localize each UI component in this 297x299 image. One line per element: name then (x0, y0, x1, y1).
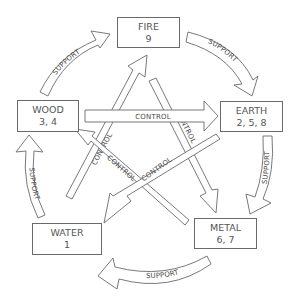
node-fire-numbers: 9 (145, 33, 151, 45)
node-earth: EARTH 2, 5, 8 (220, 101, 283, 132)
support-arrow-metal-water: SUPPORT (98, 256, 211, 289)
node-earth-name: EARTH (236, 105, 267, 117)
support-arrow-wood-fire: SUPPORT (40, 31, 110, 96)
node-fire-name: FIRE (138, 21, 159, 33)
node-water-numbers: 1 (64, 239, 70, 251)
svg-text:CONTROL: CONTROL (135, 113, 171, 121)
control-arrow-metal-wood: CONTROL (75, 129, 189, 225)
support-arrow-fire-earth: SUPPORT (186, 32, 258, 96)
node-metal: METAL 6, 7 (194, 218, 257, 249)
svg-text:SUPPORT: SUPPORT (51, 47, 82, 76)
node-metal-numbers: 6, 7 (216, 234, 234, 246)
node-wood: WOOD 3, 4 (17, 100, 79, 132)
node-water: WATER 1 (32, 223, 102, 255)
node-earth-numbers: 2, 5, 8 (236, 117, 266, 129)
svg-text:CONTROL: CONTROL (105, 154, 137, 183)
node-metal-name: METAL (210, 222, 241, 234)
node-wood-name: WOOD (32, 104, 64, 116)
support-arrow-water-wood: SUPPORT (16, 135, 45, 218)
node-water-name: WATER (50, 227, 83, 239)
support-arrow-earth-metal: SUPPORT (246, 136, 273, 214)
node-fire: FIRE 9 (117, 17, 180, 48)
node-wood-numbers: 3, 4 (39, 116, 57, 128)
